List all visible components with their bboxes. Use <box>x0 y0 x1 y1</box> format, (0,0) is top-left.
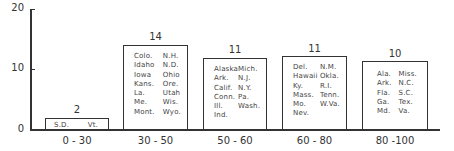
bar-80-100: Ala. Ark. Fla. Ga. Md. Miss. N.C. S.C. T… <box>362 61 428 130</box>
state: Colo. <box>134 52 155 61</box>
state: La. <box>134 89 155 98</box>
state: N.D. <box>163 61 181 70</box>
state: Md. <box>377 107 392 116</box>
state: Wyo. <box>163 108 181 117</box>
state: N.H. <box>163 52 181 61</box>
bar-value: 14 <box>123 31 188 42</box>
state: Hawaii <box>293 72 318 81</box>
state: Conn. <box>214 93 238 102</box>
state: Mo. <box>293 100 318 109</box>
bar-value: 11 <box>282 43 347 54</box>
state: R.I. <box>320 82 340 91</box>
state: Mich. <box>238 65 260 74</box>
state: Wis. <box>163 98 181 107</box>
state: Nev. <box>293 109 318 118</box>
bar-value: 11 <box>203 44 267 55</box>
bar-50-60: Alaska Ark. Calif. Conn. Ill. Ind. Mich.… <box>203 58 267 130</box>
bar-value: 10 <box>362 48 428 59</box>
state: Mass. <box>293 91 318 100</box>
state: Kans. <box>134 80 155 89</box>
state: Fla. <box>377 89 392 98</box>
state: W.Va. <box>320 100 340 109</box>
y-tick-label-10: 10 <box>2 62 24 73</box>
state: N.C. <box>398 79 417 88</box>
category-label: 0 - 30 <box>45 135 109 146</box>
state: Del. <box>293 63 318 72</box>
state-list: Alaska Ark. Calif. Conn. Ill. Ind. Mich.… <box>214 65 260 121</box>
state: N.J. <box>238 74 260 83</box>
state: Ind. <box>214 111 238 120</box>
y-tick-10 <box>30 69 35 70</box>
state: Tex. <box>398 98 417 107</box>
state-list: Ala. Ark. Fla. Ga. Md. Miss. N.C. S.C. T… <box>377 70 417 116</box>
state: Ky. <box>293 82 318 91</box>
state: Mont. <box>134 108 155 117</box>
category-label: 60 - 80 <box>282 135 347 146</box>
y-tick-label-0: 0 <box>2 123 24 134</box>
state: N.Y. <box>238 84 260 93</box>
y-tick-20 <box>30 9 35 10</box>
y-tick-label-20: 20 <box>2 2 24 13</box>
state-list: S.D. Vt. <box>54 121 98 130</box>
state: Va. <box>398 107 417 116</box>
state: Ill. <box>214 102 238 111</box>
state: Idaho <box>134 61 155 70</box>
state: S.D. <box>54 121 69 130</box>
state: Ore. <box>163 80 181 89</box>
state: Utah <box>163 89 181 98</box>
category-label: 50 - 60 <box>203 135 267 146</box>
state: Ala. <box>377 70 392 79</box>
state: Ark. <box>214 74 238 83</box>
state: Calif. <box>214 84 238 93</box>
state: Pa. <box>238 93 260 102</box>
state: Ark. <box>377 79 392 88</box>
bar-value: 2 <box>45 104 109 115</box>
bar-60-80: Del. Hawaii Ky. Mass. Mo. Nev. N.M. Okla… <box>282 56 347 130</box>
state: Iowa <box>134 71 155 80</box>
category-label: 30 - 50 <box>123 135 188 146</box>
state-list: Del. Hawaii Ky. Mass. Mo. Nev. N.M. Okla… <box>293 63 340 119</box>
state: S.C. <box>398 89 417 98</box>
state: Okla. <box>320 72 340 81</box>
bar-30-50: Colo. Idaho Iowa Kans. La. Me. Mont. N.H… <box>123 45 188 130</box>
state: Tenn. <box>320 91 340 100</box>
state: Ohio <box>163 71 181 80</box>
category-label: 80 -100 <box>362 135 428 146</box>
bar-0-30: S.D. Vt. <box>45 118 109 130</box>
state: Miss. <box>398 70 417 79</box>
state: N.M. <box>320 63 340 72</box>
state: Me. <box>134 98 155 107</box>
state: Wash. <box>238 102 260 111</box>
state: Vt. <box>88 121 98 130</box>
state: Alaska <box>214 65 238 74</box>
state: Ga. <box>377 98 392 107</box>
state-list: Colo. Idaho Iowa Kans. La. Me. Mont. N.H… <box>134 52 181 117</box>
